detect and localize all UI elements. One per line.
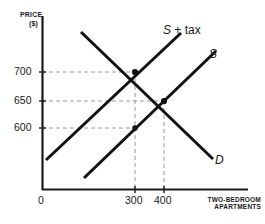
curve-label-supply: S xyxy=(209,48,217,61)
y-tick-label-700: 700 xyxy=(14,66,32,77)
guide-lines xyxy=(42,72,164,190)
x-axis-title-line2: APARTMENTS xyxy=(214,203,261,210)
x-tick-label-400: 400 xyxy=(154,195,172,206)
tick-marks xyxy=(39,72,164,193)
chart-canvas xyxy=(0,0,265,224)
curve-label-supply-plus-tax-symbol: S xyxy=(163,23,171,37)
curve-label-supply-plus-tax-suffix: + tax xyxy=(171,23,201,37)
x-origin-label: 0 xyxy=(38,195,44,206)
curves xyxy=(46,32,216,178)
marker-supply-price-after-tax xyxy=(132,125,137,130)
x-axis-title: TWO-BEDROOMAPARTMENTS xyxy=(183,196,261,210)
x-axis-title-line1: TWO-BEDROOM xyxy=(208,196,261,203)
marker-equilibrium-no-tax xyxy=(161,98,167,104)
y-tick-label-650: 650 xyxy=(14,95,32,106)
curve-label-demand: D xyxy=(215,154,224,167)
marker-equilibrium-with-tax xyxy=(132,69,138,75)
x-tick-label-300: 300 xyxy=(125,195,143,206)
curve-label-demand-symbol: D xyxy=(215,153,224,167)
curve-demand xyxy=(81,32,213,159)
y-axis-unit-label: ($) xyxy=(29,20,38,28)
curve-supply-plus-tax xyxy=(46,33,181,160)
curve-supply xyxy=(84,51,216,178)
y-tick-label-600: 600 xyxy=(14,122,32,133)
y-axis-title: PRICE xyxy=(20,11,42,19)
curve-label-supply-plus-tax: S + tax xyxy=(163,24,201,37)
supply-demand-chart: PRICE ($) 700 650 600 0 300 400 S + tax … xyxy=(0,0,265,224)
